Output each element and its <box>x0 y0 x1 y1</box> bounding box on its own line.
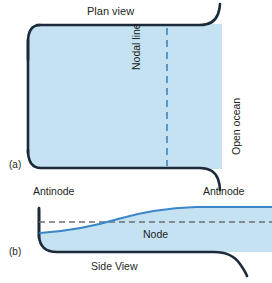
seiche-standing-wave-figure: Plan view Nodal line Open ocean (a) Anti… <box>0 0 272 283</box>
antinode-label-right: Antinode <box>203 186 244 197</box>
antinode-label-left: Antinode <box>33 186 74 197</box>
open-ocean-label: Open ocean <box>231 98 242 155</box>
panel-label-b: (b) <box>9 247 21 257</box>
plan-view-water-fill <box>28 25 214 168</box>
plan-view-title: Plan view <box>87 6 134 17</box>
panel-label-a: (a) <box>9 160 21 170</box>
plan-view-ocean-strip <box>210 24 222 169</box>
nodal-line-label: Nodal line <box>131 23 142 70</box>
node-label: Node <box>143 229 168 240</box>
side-view-title: Side View <box>91 261 138 272</box>
